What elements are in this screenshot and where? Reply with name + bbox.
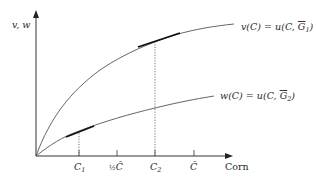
tangent-v-at-c2 (138, 33, 180, 47)
tick-label-cbar: C̄ (190, 161, 198, 172)
tick-label-c1: C1 (74, 161, 85, 174)
utility-diagram: v, w v(C) = u(C, G1) w(C) = u(C, G2) C1 … (0, 0, 316, 182)
tick-label-c2: C2 (150, 161, 161, 174)
tangent-w-at-c1 (66, 126, 94, 137)
v-curve-label: v(C) = u(C, G1) (241, 21, 314, 34)
x-axis-arrow-icon (225, 153, 233, 159)
tick-label-half-cbar: ½C̄ (109, 161, 124, 172)
w-curve-label: w(C) = u(C, G2) (220, 90, 295, 103)
y-axis-arrow-icon (33, 10, 39, 18)
y-axis-label: v, w (12, 19, 30, 30)
w-curve (36, 96, 214, 156)
x-axis-label: Corn (225, 161, 249, 172)
